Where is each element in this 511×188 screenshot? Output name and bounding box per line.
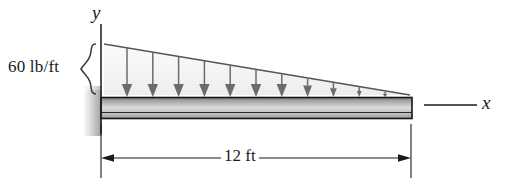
beam xyxy=(101,98,412,119)
axis-x-label: x xyxy=(482,92,490,114)
axis-y-label: y xyxy=(92,2,100,24)
span-dimension-label: 12 ft xyxy=(221,146,259,166)
beam-load-diagram: 60 lb/ft 12 ft y x xyxy=(0,0,511,188)
dimension-arrowhead-left xyxy=(101,154,114,161)
dimension-arrowhead-right xyxy=(398,154,411,161)
load-intensity-label: 60 lb/ft xyxy=(8,57,59,77)
load-arrow-head xyxy=(383,94,388,97)
